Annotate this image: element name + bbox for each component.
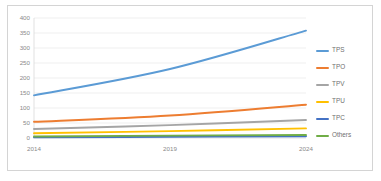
legend-swatch-tpc	[316, 118, 329, 120]
y-tick-label: 300	[20, 44, 31, 51]
y-tick-label: 250	[20, 59, 31, 66]
y-tick-label: 200	[20, 74, 31, 81]
legend-swatch-tps	[316, 50, 329, 52]
legend-swatch-tpu	[316, 101, 329, 103]
legend-label-others: Others	[332, 132, 351, 138]
legend-label-tpu: TPU	[332, 98, 345, 104]
legend-swatch-tpo	[316, 67, 329, 69]
legend-item-tpu[interactable]: TPU	[316, 93, 368, 110]
y-tick-label: 0	[27, 134, 31, 141]
chart-legend: TPS TPO TPV TPU TPC Others	[316, 42, 368, 144]
y-tick-label: 350	[20, 29, 31, 36]
series-line-tpu	[34, 128, 306, 133]
x-axis-tick-labels: 201420192024	[27, 145, 313, 152]
y-tick-label: 400	[20, 14, 31, 21]
y-axis-tick-labels: 050100150200250300350400	[20, 14, 31, 141]
legend-item-tpc[interactable]: TPC	[316, 110, 368, 127]
legend-item-tps[interactable]: TPS	[316, 42, 368, 59]
legend-label-tpc: TPC	[332, 115, 345, 121]
x-tick-label: 2014	[27, 145, 41, 152]
legend-item-tpv[interactable]: TPV	[316, 76, 368, 93]
series-line-tpv	[34, 120, 306, 129]
legend-swatch-others	[316, 135, 329, 137]
y-tick-label: 150	[20, 89, 31, 96]
x-tick-label: 2024	[299, 145, 313, 152]
legend-label-tpv: TPV	[332, 81, 344, 87]
y-tick-label: 50	[23, 119, 30, 126]
legend-swatch-tpv	[316, 84, 329, 86]
x-tick-label: 2019	[163, 145, 177, 152]
legend-label-tps: TPS	[332, 47, 344, 53]
series-line-tpo	[34, 105, 306, 122]
legend-item-others[interactable]: Others	[316, 127, 368, 144]
legend-label-tpo: TPO	[332, 64, 345, 70]
chart-container: 050100150200250300350400 201420192024 TP…	[7, 5, 373, 171]
data-series-group	[34, 31, 306, 138]
y-tick-label: 100	[20, 104, 31, 111]
legend-item-tpo[interactable]: TPO	[316, 59, 368, 76]
